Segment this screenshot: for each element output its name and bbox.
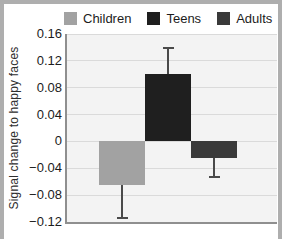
scan-border-right xyxy=(278,0,282,239)
error-cap-adults xyxy=(209,176,220,178)
legend-swatch-icon xyxy=(147,12,160,25)
error-cap-teens xyxy=(163,47,174,49)
bar-teens xyxy=(145,74,191,141)
scan-border-top xyxy=(0,0,282,4)
legend-item-teens: Teens xyxy=(147,11,201,26)
plot-area xyxy=(65,34,277,224)
legend-item-children: Children xyxy=(64,11,131,26)
gridline-y-0.12 xyxy=(67,60,277,61)
legend-swatch-icon xyxy=(64,12,77,25)
y-tick-label: −0.04 xyxy=(14,160,62,176)
error-bar-teens xyxy=(167,47,169,74)
y-tick-label: 0.08 xyxy=(14,80,62,96)
bar-children xyxy=(99,141,145,185)
y-tick-label: 0.12 xyxy=(14,53,62,69)
bar-adults xyxy=(191,141,237,158)
y-tick-label: 0 xyxy=(14,133,62,149)
error-cap-children xyxy=(117,217,128,219)
gridline-y--0.08 xyxy=(67,195,277,196)
error-bar-children xyxy=(121,185,123,219)
bar-chart-figure: ChildrenTeensAdults Signal change to hap… xyxy=(0,0,282,239)
y-tick-label: 0.04 xyxy=(14,107,62,123)
gridline-y-0.16 xyxy=(67,34,277,35)
legend-label: Children xyxy=(83,11,131,26)
error-bar-adults xyxy=(213,158,215,178)
y-tick-label: −0.08 xyxy=(14,187,62,203)
legend-item-adults: Adults xyxy=(217,11,272,26)
legend-label: Adults xyxy=(236,11,272,26)
scan-border-left xyxy=(0,0,4,239)
y-axis-title: Signal change to happy faces xyxy=(7,46,21,209)
legend-swatch-icon xyxy=(217,12,230,25)
legend-label: Teens xyxy=(166,11,201,26)
y-tick-label: −0.12 xyxy=(14,214,62,230)
y-tick-label: 0.16 xyxy=(14,26,62,42)
chart-legend: ChildrenTeensAdults xyxy=(64,11,272,26)
